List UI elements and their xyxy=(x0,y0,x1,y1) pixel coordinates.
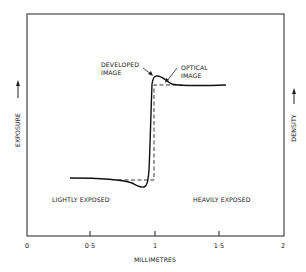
label-lightly-exposed: LIGHTLY EXPOSED xyxy=(52,196,110,203)
svg-text:1: 1 xyxy=(153,242,157,250)
annotation-optical-image: OPTICAL IMAGE xyxy=(165,64,208,83)
x-tick-labels: 0 0·5 1 1·5 2 xyxy=(25,242,285,250)
svg-text:1·5: 1·5 xyxy=(214,242,224,250)
svg-text:IMAGE: IMAGE xyxy=(101,69,122,76)
svg-text:2: 2 xyxy=(281,242,285,250)
up-arrow-head-icon xyxy=(16,80,20,86)
svg-text:0: 0 xyxy=(25,242,29,250)
svg-text:DEVELOPED: DEVELOPED xyxy=(101,61,139,68)
svg-text:OPTICAL: OPTICAL xyxy=(181,64,208,71)
svg-text:0·5: 0·5 xyxy=(85,242,95,250)
up-arrow-head-icon xyxy=(292,88,296,94)
x-axis-ticks xyxy=(90,231,219,236)
annotation-developed-image: DEVELOPED IMAGE xyxy=(101,61,153,76)
svg-text:IMAGE: IMAGE xyxy=(181,72,202,79)
svg-text:DENSITY: DENSITY xyxy=(290,114,297,141)
svg-text:EXPOSURE: EXPOSURE xyxy=(14,113,21,147)
developed-image-curve xyxy=(70,76,226,187)
chart: 0 0·5 1 1·5 2 MILLIMETRES EXPOSURE DENSI… xyxy=(0,0,306,272)
x-axis-label: MILLIMETRES xyxy=(134,256,176,263)
label-heavily-exposed: HEAVILY EXPOSED xyxy=(193,196,251,203)
y-axis-right: DENSITY xyxy=(290,88,297,142)
y-axis-left: EXPOSURE xyxy=(14,80,21,147)
